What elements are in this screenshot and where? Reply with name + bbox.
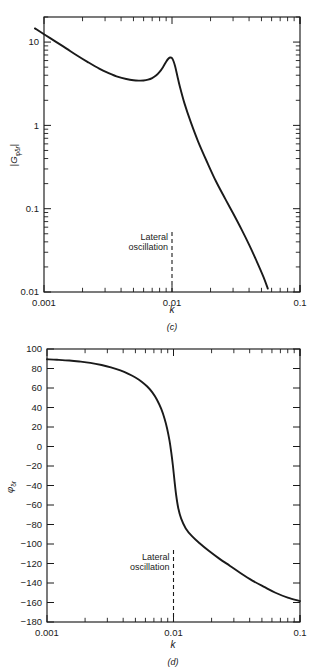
ytick-label: 40 [31, 402, 42, 413]
ytick-label: 10 [28, 36, 39, 47]
panel-c-ylabel-g: G [8, 156, 19, 163]
panel-d-yaxis-title: φδr [4, 480, 17, 493]
ytick-label: −100 [21, 538, 42, 549]
xtick-label: 0.01 [164, 627, 183, 638]
panel-c-yaxis-title: |Gφδr| [8, 144, 22, 166]
svg-text:φδr: φδr [4, 480, 17, 493]
panel-d-phase-plot: 100806040200−20−40−60−80−100−120−140−160… [0, 335, 314, 670]
ytick-label: 0.01 [21, 286, 40, 297]
xtick-label: 0.1 [293, 627, 306, 638]
panel-c-magnitude-plot: 0.010.1110 0.0010.010.1 Lateral oscillat… [0, 0, 314, 335]
xtick-label: 0.1 [293, 297, 306, 308]
ytick-label: −20 [26, 460, 42, 471]
panel-d-svg: 100806040200−20−40−60−80−100−120−140−160… [0, 335, 314, 670]
xtick-label: 0.001 [35, 627, 59, 638]
ytick-label: 0.1 [26, 203, 39, 214]
panel-c-ylabel-bar-right: | [8, 144, 19, 146]
ytick-label: 20 [31, 421, 42, 432]
figure-container: 0.010.1110 0.0010.010.1 Lateral oscillat… [0, 0, 314, 670]
xtick-label: 0.001 [32, 297, 56, 308]
panel-d-ylabel-sub2: r [10, 480, 17, 483]
ytick-label: 60 [31, 382, 42, 393]
panel-c-annotation-line2: oscillation [128, 242, 168, 252]
panel-d-annotation-line2: oscillation [130, 562, 170, 572]
panel-c-annotation-line1: Lateral [140, 232, 168, 242]
ytick-label: 0 [37, 441, 42, 452]
ytick-label: −140 [21, 577, 42, 588]
ytick-label: −180 [21, 616, 42, 627]
panel-d-caption: (d) [168, 657, 179, 667]
ytick-label: −160 [21, 597, 42, 608]
ytick-label: −120 [21, 558, 42, 569]
ytick-label: 100 [26, 343, 42, 354]
ytick-label: −60 [26, 499, 42, 510]
ytick-label: 1 [34, 120, 39, 131]
ytick-label: −40 [26, 480, 42, 491]
ytick-label: 80 [31, 363, 42, 374]
panel-d-xaxis-title: k [171, 639, 177, 650]
panel-c-svg: 0.010.1110 0.0010.010.1 Lateral oscillat… [0, 0, 314, 335]
svg-text:|Gφδr|: |Gφδr| [8, 144, 22, 166]
panel-c-caption: (c) [167, 322, 178, 332]
panel-d-annotation-line1: Lateral [142, 552, 170, 562]
ytick-label: −80 [26, 519, 42, 530]
